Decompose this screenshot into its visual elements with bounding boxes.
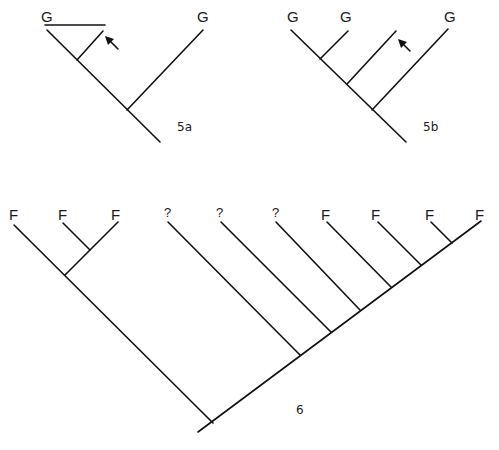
taxon-label: G — [197, 8, 209, 25]
branch — [347, 31, 396, 84]
figure-caption: 6 — [296, 403, 304, 417]
taxon-label: F — [9, 206, 18, 223]
branch — [372, 29, 448, 110]
taxon-label: ? — [164, 205, 171, 220]
taxon-label: G — [444, 8, 456, 25]
branch — [63, 223, 90, 250]
branch — [327, 222, 391, 287]
taxon-label: F — [371, 206, 380, 223]
branch — [431, 222, 452, 243]
taxon-label: F — [425, 206, 434, 223]
arrow-icon — [105, 36, 118, 49]
main-stem — [291, 30, 406, 142]
taxon-label: F — [111, 206, 120, 223]
main-stem — [47, 30, 160, 142]
main-stem — [14, 225, 213, 423]
taxon-label: G — [287, 8, 299, 25]
cladogram-5a: G G 5a — [41, 8, 209, 142]
figure-caption: 5a — [177, 120, 192, 134]
arrow-icon — [398, 39, 410, 51]
branch — [77, 31, 103, 60]
taxon-label: F — [321, 206, 330, 223]
cladogram-canvas: G G 5a G G G 5b F F F ? ? ? F F — [0, 0, 499, 450]
cladogram-5b: G G G 5b — [287, 8, 456, 142]
branch — [378, 222, 421, 265]
branch — [320, 31, 348, 59]
branch — [221, 222, 331, 332]
taxon-label: ? — [272, 205, 279, 220]
taxon-label: F — [475, 206, 484, 223]
branch — [168, 222, 300, 355]
branch — [127, 30, 203, 110]
taxon-label: G — [41, 8, 53, 25]
branch — [65, 222, 118, 275]
taxon-label: F — [58, 206, 67, 223]
taxon-label: ? — [216, 205, 223, 220]
cladogram-6: F F F ? ? ? F F F F 6 — [9, 205, 484, 432]
right-spine — [198, 221, 481, 432]
branch — [276, 222, 360, 310]
taxon-label: G — [340, 8, 352, 25]
figure-caption: 5b — [423, 120, 438, 134]
